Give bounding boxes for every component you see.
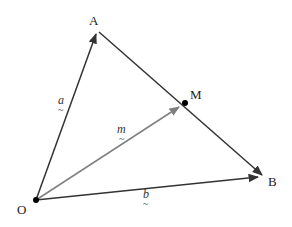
point-a-label: A (89, 13, 99, 28)
vector-m-tilde: ~ (119, 133, 125, 144)
vector-b-tilde: ~ (143, 198, 149, 209)
vector-diagram: A M B O a ~ m ~ b ~ (0, 0, 292, 227)
vector-a-tilde: ~ (58, 104, 64, 115)
vector-m-arrow (36, 107, 179, 200)
point-b-label: B (268, 174, 277, 189)
segment-ab (99, 32, 262, 175)
point-m-label: M (190, 87, 202, 102)
point-o-dot (33, 197, 39, 203)
point-o-label: O (17, 202, 26, 217)
vector-a-arrow (36, 34, 96, 200)
point-m-dot (182, 100, 188, 106)
